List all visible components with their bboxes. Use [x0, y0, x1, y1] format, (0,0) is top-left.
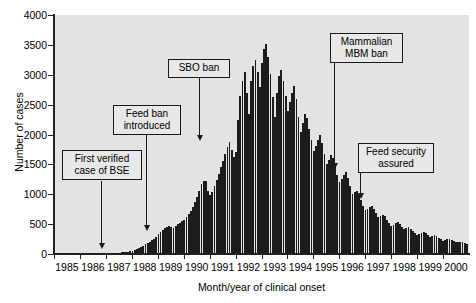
x-tick-mark	[262, 255, 263, 259]
annotation-leader-line-mammalian-mbm-ban	[334, 63, 335, 164]
x-tick-mark	[158, 255, 159, 259]
annotation-leader-line-first-verified-case	[101, 181, 102, 244]
x-tick-mark	[236, 255, 237, 259]
x-tick-mark	[106, 255, 107, 259]
y-tick-label: 500	[3, 219, 47, 229]
annotation-leader-line-sbo-ban	[199, 77, 200, 136]
annotation-leader-line-feed-ban-introduced	[146, 134, 147, 226]
y-tick-label: 1500	[3, 159, 47, 169]
y-tick-label: 3000	[3, 70, 47, 80]
y-tick-label: 1000	[3, 189, 47, 199]
x-tick-mark	[443, 255, 444, 259]
annotation-arrow-sbo-ban	[197, 135, 203, 141]
y-tick-label: 4000	[3, 10, 47, 20]
y-tick-mark	[48, 164, 54, 165]
y-tick-mark	[48, 105, 54, 106]
annotation-arrow-feed-security-assured	[358, 193, 364, 199]
y-tick-mark	[48, 194, 54, 195]
x-tick-mark	[417, 255, 418, 259]
x-tick-mark	[391, 255, 392, 259]
y-tick-mark	[48, 15, 54, 16]
annotation-feed-security-assured: Feed security assured	[358, 143, 434, 173]
y-tick-label: 2000	[3, 130, 47, 140]
annotation-sbo-ban: SBO ban	[168, 59, 230, 78]
y-tick-mark	[48, 45, 54, 46]
y-tick-label: 2500	[3, 100, 47, 110]
x-tick-mark	[184, 255, 185, 259]
annotation-mammalian-mbm-ban: Mammalian MBM ban	[330, 33, 403, 63]
x-tick-mark	[287, 255, 288, 259]
x-tick-mark	[54, 255, 55, 259]
x-tick-mark	[80, 255, 81, 259]
annotation-arrow-feed-ban-introduced	[144, 225, 150, 231]
x-tick-mark	[313, 255, 314, 259]
y-tick-mark	[48, 75, 54, 76]
x-tick-mark	[210, 255, 211, 259]
y-tick-label: 0	[3, 249, 47, 259]
annotation-first-verified-case: First verified case of BSE	[62, 150, 142, 180]
x-axis-label: Month/year of clinical onset	[54, 281, 469, 293]
y-tick-label: 3500	[3, 40, 47, 50]
x-tick-mark	[339, 255, 340, 259]
annotation-arrow-first-verified-case	[99, 243, 105, 249]
x-tick-label: 2000	[441, 261, 471, 273]
bse-epidemic-chart: 05001000150020002500300035004000 1985198…	[0, 0, 476, 303]
annotation-arrow-mammalian-mbm-ban	[332, 163, 338, 169]
y-axis-label: Number of cases	[13, 62, 25, 202]
annotation-leader-line-feed-security-assured	[360, 173, 361, 194]
x-tick-mark	[132, 255, 133, 259]
x-tick-mark	[365, 255, 366, 259]
annotation-feed-ban-introduced: Feed ban introduced	[113, 105, 181, 135]
y-tick-mark	[48, 135, 54, 136]
y-tick-mark	[48, 224, 54, 225]
